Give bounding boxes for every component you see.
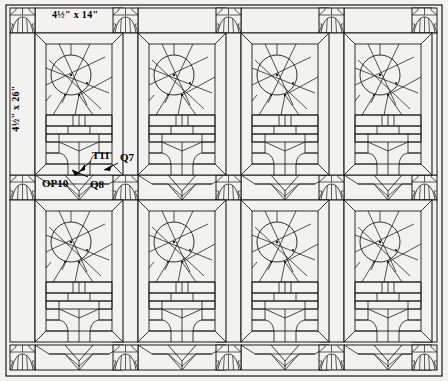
- dimension-label-left: 4½" x 26": [10, 85, 21, 131]
- part-label-q7: Q7: [120, 151, 134, 163]
- dimension-label-top: 4½" x 14": [52, 9, 98, 20]
- drawing-canvas: 4½" x 14" 4½" x 26" T11 Q7 OP10 Q8: [0, 0, 448, 381]
- part-label-q8: Q8: [90, 178, 104, 190]
- part-label-op10: OP10: [42, 177, 68, 189]
- window-layout-drawing: [0, 0, 448, 381]
- part-label-t11: T11: [92, 149, 110, 161]
